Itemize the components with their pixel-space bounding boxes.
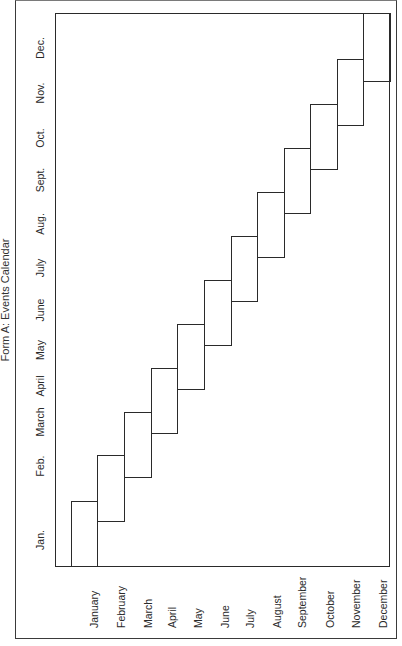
event-step-april bbox=[151, 368, 178, 434]
bottom-month-label: May bbox=[192, 608, 204, 628]
event-step-may bbox=[177, 324, 205, 390]
left-month-label: Nov. bbox=[34, 83, 46, 104]
left-month-label: Oct. bbox=[34, 128, 46, 147]
left-month-label: Sept. bbox=[34, 168, 46, 193]
bottom-month-label: November bbox=[350, 580, 362, 628]
event-step-march bbox=[124, 412, 152, 478]
event-step-june bbox=[204, 280, 232, 346]
bottom-month-label: January bbox=[88, 591, 100, 628]
bottom-month-label: April bbox=[166, 607, 178, 628]
event-step-december bbox=[363, 13, 391, 82]
event-step-september bbox=[284, 148, 311, 214]
left-month-label: May bbox=[34, 340, 46, 360]
left-month-label: April bbox=[34, 375, 46, 396]
event-step-november bbox=[337, 59, 364, 126]
left-month-label: Aug. bbox=[34, 213, 46, 235]
left-month-label: June bbox=[34, 299, 46, 322]
event-step-january bbox=[71, 501, 98, 567]
bottom-month-label: October bbox=[324, 591, 336, 628]
bottom-month-label: August bbox=[271, 595, 283, 628]
page-title: Form A: Events Calendar bbox=[0, 239, 11, 362]
left-month-label: July bbox=[34, 259, 46, 278]
left-month-label: Jan. bbox=[34, 530, 46, 550]
event-step-august bbox=[257, 192, 285, 258]
bottom-month-label: February bbox=[115, 586, 127, 628]
bottom-month-label: July bbox=[244, 609, 256, 628]
left-month-label: March bbox=[34, 407, 46, 436]
left-month-label: Dec. bbox=[34, 37, 46, 59]
bottom-month-label: March bbox=[142, 599, 154, 628]
bottom-month-label: June bbox=[219, 605, 231, 628]
bottom-month-label: December bbox=[377, 580, 389, 628]
event-step-october bbox=[310, 104, 338, 170]
event-step-july bbox=[231, 236, 258, 302]
bottom-month-label: September bbox=[296, 577, 308, 628]
event-step-february bbox=[97, 455, 125, 522]
left-month-label: Feb. bbox=[34, 455, 46, 476]
